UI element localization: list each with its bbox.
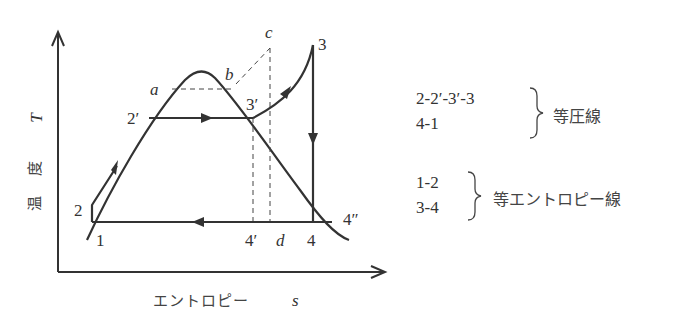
- y-axis-label: 温 度: [26, 153, 44, 212]
- label-3-prime: 3′: [246, 95, 258, 114]
- label-4: 4: [307, 231, 316, 250]
- legend-line: 3-4: [416, 195, 439, 220]
- construction-lines: [172, 48, 270, 222]
- x-symbol: s: [292, 291, 299, 310]
- label-b: b: [225, 65, 234, 84]
- axis-labels: T 温 度 エントロピー s: [26, 112, 299, 310]
- label-2: 2: [74, 201, 83, 220]
- dashed-b-c: [236, 48, 270, 84]
- legend-label-isentropic: 等エントロピー線: [493, 186, 621, 210]
- brace-icon: [468, 172, 481, 220]
- arrow-down-icon: [308, 133, 318, 145]
- x-axis-label: エントロピー: [153, 292, 249, 310]
- brace-icon: [530, 88, 543, 138]
- label-2-prime: 2′: [127, 109, 139, 128]
- label-d: d: [276, 231, 285, 250]
- label-a: a: [150, 80, 159, 99]
- label-4-double-prime: 4″: [343, 210, 359, 229]
- cycle-path: [92, 45, 332, 222]
- legend-group-isentropic: 1-2 3-4: [416, 170, 439, 220]
- arrow-left-icon: [192, 217, 204, 227]
- process-1-2: [92, 166, 117, 222]
- flow-arrows: [111, 86, 318, 227]
- legend-line: 1-2: [416, 170, 439, 195]
- legend-group-isobaric: 2-2′-3′-3 4-1: [416, 86, 474, 136]
- label-c: c: [265, 23, 273, 42]
- legend-line: 2-2′-3′-3: [416, 86, 474, 111]
- legend-line: 4-1: [416, 111, 474, 136]
- saturation-dome-curve: [87, 71, 349, 240]
- y-symbol: T: [27, 112, 46, 123]
- arrow-right-icon: [201, 113, 213, 123]
- label-4-prime: 4′: [245, 231, 257, 250]
- ts-diagram: 1 2 2′ 3 3′ 4 4′ 4″ a b c d T 温 度 エントロピー…: [0, 0, 673, 328]
- label-3: 3: [318, 35, 327, 54]
- label-1: 1: [96, 231, 105, 250]
- legend-label-isobaric: 等圧線: [553, 103, 601, 127]
